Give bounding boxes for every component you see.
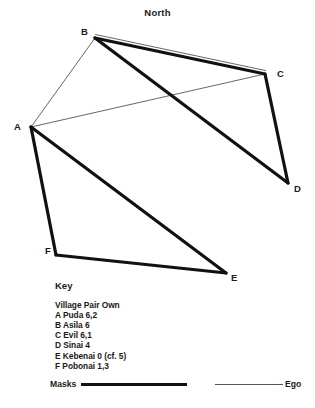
key-column-header: Village Pair Own bbox=[55, 300, 255, 310]
key-entry-f: F Pobonai 1,3 bbox=[55, 361, 255, 371]
node-label-f: F bbox=[45, 246, 51, 256]
key-entry-d: D Sinai 4 bbox=[55, 340, 255, 350]
key-list: Village Pair Own A Puda 6,2 B Asila 6 C … bbox=[55, 300, 255, 371]
node-label-b: B bbox=[81, 27, 88, 37]
node-label-c: C bbox=[277, 69, 284, 79]
key-entry-c: C Evil 6,1 bbox=[55, 330, 255, 340]
legend-ego-line-swatch bbox=[215, 384, 283, 385]
edge-a-f-masks bbox=[31, 127, 56, 255]
node-label-d: D bbox=[294, 184, 301, 194]
key-title: Key bbox=[55, 281, 255, 291]
key-entry-e: E Kebenai 0 (cf. 5) bbox=[55, 351, 255, 361]
edge-layer bbox=[31, 35, 288, 273]
node-label-a: A bbox=[14, 122, 21, 132]
edge-a-c-ego bbox=[31, 74, 265, 127]
legend-row: Masks Ego bbox=[0, 378, 315, 392]
edge-f-e-masks bbox=[56, 255, 226, 273]
edge-b-c-ego bbox=[96, 35, 266, 71]
legend-masks-label: Masks bbox=[50, 379, 76, 389]
edge-a-b-ego bbox=[31, 38, 95, 127]
edge-a-e-masks bbox=[31, 127, 226, 273]
key-entry-a: A Puda 6,2 bbox=[55, 310, 255, 320]
diagram-root: North ABCDEF Key Village Pair Own A Puda… bbox=[0, 0, 315, 408]
legend-ego-label: Ego bbox=[285, 379, 301, 389]
legend-masks-line-swatch bbox=[81, 383, 187, 386]
key-entry-b: B Asila 6 bbox=[55, 320, 255, 330]
key-block: Key Village Pair Own A Puda 6,2 B Asila … bbox=[55, 281, 255, 371]
